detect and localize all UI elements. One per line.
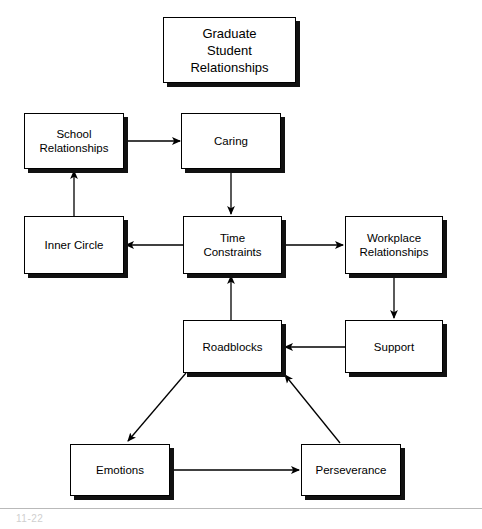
node-perseverance[interactable]: Perseverance bbox=[301, 444, 401, 496]
diagram-canvas: Graduate Student Relationships School Re… bbox=[0, 0, 482, 529]
node-title: Graduate Student Relationships bbox=[163, 17, 296, 83]
node-inner-circle[interactable]: Inner Circle bbox=[24, 216, 124, 274]
node-support-label: Support bbox=[371, 340, 417, 354]
node-caring[interactable]: Caring bbox=[181, 113, 281, 169]
node-workplace-relationships-label: Workplace Relationships bbox=[356, 231, 431, 259]
edge-persever-to-roadblocks bbox=[285, 375, 340, 443]
node-time-constraints-label: Time Constraints bbox=[200, 231, 264, 259]
node-inner-circle-label: Inner Circle bbox=[42, 238, 107, 252]
node-workplace-relationships[interactable]: Workplace Relationships bbox=[345, 216, 443, 274]
node-school-relationships[interactable]: School Relationships bbox=[24, 113, 124, 169]
node-school-relationships-label: School Relationships bbox=[36, 127, 111, 155]
footer-note: 11-22 bbox=[16, 513, 43, 524]
node-emotions[interactable]: Emotions bbox=[70, 444, 170, 496]
node-emotions-label: Emotions bbox=[93, 463, 147, 477]
edge-roadblocks-to-emotions bbox=[128, 373, 186, 441]
node-time-constraints[interactable]: Time Constraints bbox=[183, 216, 282, 274]
node-support[interactable]: Support bbox=[345, 320, 443, 373]
node-title-label: Graduate Student Relationships bbox=[187, 25, 271, 76]
node-perseverance-label: Perseverance bbox=[313, 463, 390, 477]
node-roadblocks-label: Roadblocks bbox=[199, 340, 265, 354]
node-roadblocks[interactable]: Roadblocks bbox=[183, 320, 282, 373]
node-caring-label: Caring bbox=[211, 134, 251, 148]
footer-divider bbox=[0, 508, 482, 509]
